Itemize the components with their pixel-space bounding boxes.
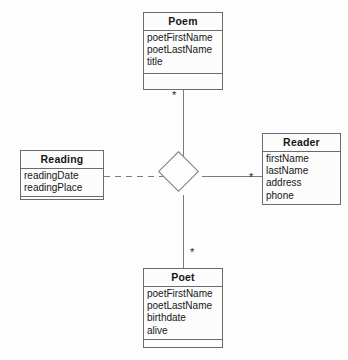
attribute-compartment-poem: poetFirstName poetLastName title bbox=[144, 31, 222, 74]
operation-compartment-poem bbox=[144, 74, 222, 89]
multiplicity-poet: * bbox=[190, 247, 194, 257]
connector-association-to-poem bbox=[183, 90, 184, 157]
attribute-compartment-poet: poetFirstName poetLastName birthdate ali… bbox=[144, 287, 222, 340]
uml-class-poet[interactable]: Poet poetFirstName poetLastName birthdat… bbox=[143, 268, 223, 348]
uml-class-reading[interactable]: Reading readingDate readingPlace bbox=[20, 150, 104, 200]
association-diamond[interactable] bbox=[158, 151, 199, 192]
operation-compartment-reading bbox=[21, 197, 103, 211]
uml-class-poem[interactable]: Poem poetFirstName poetLastName title bbox=[143, 12, 223, 90]
attribute: address bbox=[266, 177, 340, 189]
attribute: firstName bbox=[266, 153, 340, 165]
class-name-poem: Poem bbox=[144, 13, 222, 31]
multiplicity-poem: * bbox=[172, 90, 176, 100]
diagram-canvas: * * * Poem poetFirstName poetLastName ti… bbox=[0, 0, 348, 360]
attribute: readingDate bbox=[24, 170, 103, 182]
attribute: lastName bbox=[266, 165, 340, 177]
attribute: poetLastName bbox=[147, 300, 222, 312]
multiplicity-reader: * bbox=[249, 172, 253, 182]
attribute: birthdate bbox=[147, 312, 222, 324]
uml-class-reader[interactable]: Reader firstName lastName address phone bbox=[262, 133, 341, 205]
attribute: title bbox=[147, 56, 222, 68]
attribute-compartment-reader: firstName lastName address phone bbox=[263, 152, 340, 205]
class-name-reading: Reading bbox=[21, 151, 103, 169]
attribute: poetFirstName bbox=[147, 288, 222, 300]
connector-association-to-reading-dashed bbox=[104, 176, 164, 177]
attribute: poetFirstName bbox=[147, 32, 222, 44]
attribute-compartment-reading: readingDate readingPlace bbox=[21, 169, 103, 197]
attribute: readingPlace bbox=[24, 182, 103, 194]
operation-compartment-poet bbox=[144, 340, 222, 356]
attribute: poetLastName bbox=[147, 44, 222, 56]
class-name-poet: Poet bbox=[144, 269, 222, 287]
attribute: alive bbox=[147, 325, 222, 337]
class-name-reader: Reader bbox=[263, 134, 340, 152]
operation-compartment-reader bbox=[263, 205, 340, 219]
attribute: phone bbox=[266, 190, 340, 202]
connector-association-to-poet bbox=[183, 195, 184, 268]
